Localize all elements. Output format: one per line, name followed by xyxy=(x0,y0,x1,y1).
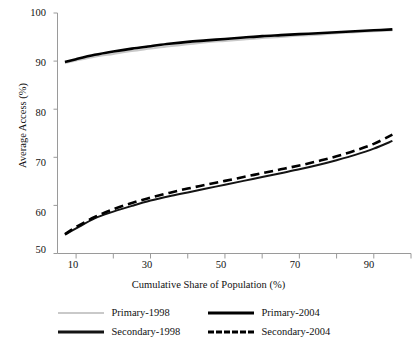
line-swatch-icon xyxy=(208,308,254,318)
legend-row-2: Secondary-1998 Secondary-2004 xyxy=(0,322,417,341)
chart-figure: Average Access (%) Cumulative Share of P… xyxy=(0,0,417,346)
series-lines xyxy=(65,29,392,234)
axis-lines xyxy=(58,13,412,254)
line-swatch-icon xyxy=(58,327,104,337)
x-tick-marks xyxy=(76,254,411,259)
series-line-secondary-1998 xyxy=(65,141,392,235)
series-line-primary-1998 xyxy=(65,30,392,63)
legend-label: Primary-2004 xyxy=(262,307,320,318)
chart-legend: Primary-1998 Primary-2004 Secondary-1998… xyxy=(0,303,417,341)
legend-label: Secondary-2004 xyxy=(262,326,331,337)
line-swatch-icon xyxy=(208,327,254,337)
legend-item-secondary-1998[interactable]: Secondary-1998 xyxy=(58,326,208,337)
legend-row-1: Primary-1998 Primary-2004 xyxy=(0,303,417,322)
plot-area xyxy=(0,0,417,300)
y-tick-marks xyxy=(54,13,58,254)
legend-label: Secondary-1998 xyxy=(112,326,181,337)
legend-item-primary-1998[interactable]: Primary-1998 xyxy=(58,307,208,318)
series-line-primary-2004 xyxy=(65,29,392,62)
line-swatch-icon xyxy=(58,308,104,318)
legend-item-primary-2004[interactable]: Primary-2004 xyxy=(208,307,360,318)
legend-item-secondary-2004[interactable]: Secondary-2004 xyxy=(208,326,360,337)
legend-label: Primary-1998 xyxy=(112,307,170,318)
